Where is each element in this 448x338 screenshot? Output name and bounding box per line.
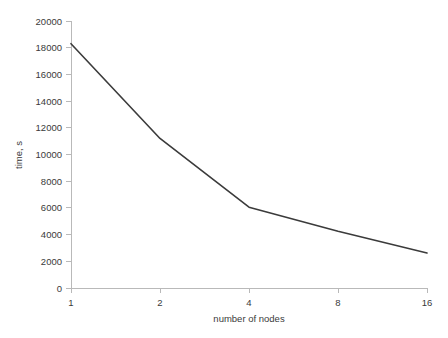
y-axis-title: time, s <box>13 141 24 169</box>
x-axis-title: number of nodes <box>213 313 285 324</box>
x-tick-label: 4 <box>246 297 251 308</box>
x-tick-label: 8 <box>335 297 340 308</box>
y-tick-label: 4000 <box>41 229 62 240</box>
x-tick-label: 16 <box>422 297 433 308</box>
y-tick-label: 0 <box>57 283 62 294</box>
x-tick-label: 1 <box>68 297 73 308</box>
y-tick-label: 16000 <box>36 69 62 80</box>
y-axis-ticks <box>66 21 71 288</box>
x-tick-label: 2 <box>157 297 162 308</box>
y-tick-label: 2000 <box>41 256 62 267</box>
y-axis-tick-labels: 20000 18000 16000 14000 12000 10000 8000… <box>36 16 62 294</box>
chart-container: 20000 18000 16000 14000 12000 10000 8000… <box>0 0 448 338</box>
x-axis-ticks <box>71 288 427 293</box>
y-tick-label: 10000 <box>36 149 62 160</box>
x-axis-tick-labels: 1 2 4 8 16 <box>68 297 432 308</box>
y-tick-label: 12000 <box>36 122 62 133</box>
data-series-time <box>71 44 427 253</box>
y-tick-label: 18000 <box>36 42 62 53</box>
y-tick-label: 8000 <box>41 176 62 187</box>
y-tick-label: 6000 <box>41 202 62 213</box>
y-tick-label: 14000 <box>36 96 62 107</box>
line-chart: 20000 18000 16000 14000 12000 10000 8000… <box>0 0 448 338</box>
y-tick-label: 20000 <box>36 16 62 27</box>
